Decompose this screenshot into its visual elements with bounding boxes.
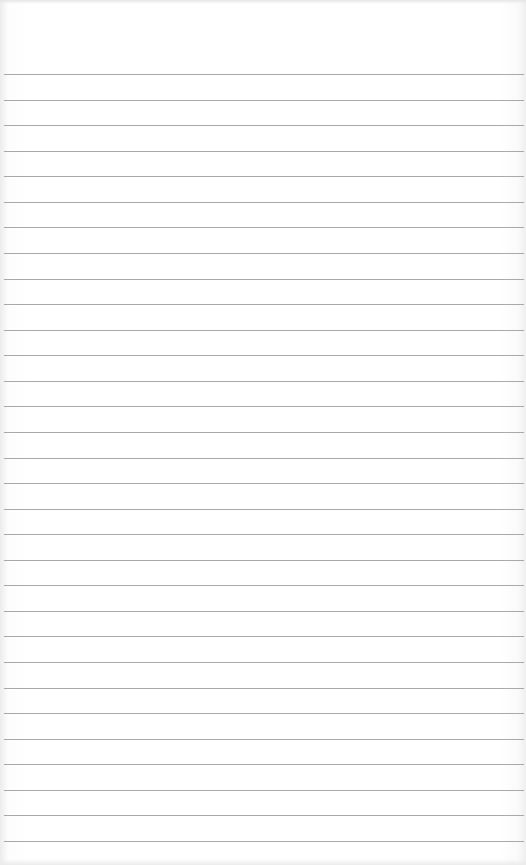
paper-top-edge [0,0,526,4]
ruled-line [4,176,524,177]
ruled-line [4,713,524,714]
ruled-line [4,662,524,663]
ruled-line [4,841,524,842]
ruled-line [4,74,524,75]
ruled-line [4,790,524,791]
ruled-line [4,125,524,126]
ruled-line [4,636,524,637]
ruled-line [4,304,524,305]
ruled-line [4,509,524,510]
ruled-line [4,227,524,228]
lined-paper [0,0,526,865]
ruled-line [4,253,524,254]
ruled-line [4,330,524,331]
ruled-line [4,406,524,407]
ruled-line [4,815,524,816]
ruled-line [4,764,524,765]
ruled-line [4,739,524,740]
ruled-line [4,534,524,535]
ruled-line [4,458,524,459]
ruled-line [4,355,524,356]
ruled-line [4,688,524,689]
paper-bottom-edge [0,859,526,865]
ruled-line [4,585,524,586]
ruled-line [4,560,524,561]
ruled-line [4,611,524,612]
ruled-line [4,432,524,433]
ruled-line [4,202,524,203]
ruled-line [4,381,524,382]
ruled-line [4,151,524,152]
ruled-line [4,100,524,101]
ruled-line [4,279,524,280]
ruled-line [4,483,524,484]
